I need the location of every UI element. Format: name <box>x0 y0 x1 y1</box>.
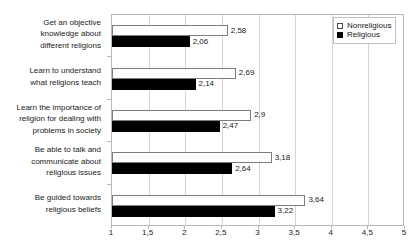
x-tick-mark <box>258 226 259 229</box>
bar-group-nonreligious: 2,9 <box>112 110 405 121</box>
bar <box>112 25 228 36</box>
category-label-line: communicate about <box>0 156 101 168</box>
x-tick-mark <box>367 226 368 229</box>
bar-group-religious: 3,22 <box>112 206 405 217</box>
category-row: 2,692,14 <box>112 57 403 99</box>
category-label-line: Learn to understand <box>0 65 101 77</box>
bar-value-label: 2,47 <box>220 122 239 130</box>
x-tick-label: 3,5 <box>289 228 300 237</box>
category-label-line: what religions teach <box>0 77 101 89</box>
category-axis-labels: Get an objectiveknowledge aboutdifferent… <box>0 14 107 226</box>
bar-group-nonreligious: 3,64 <box>112 195 405 206</box>
category-row: 3,182,64 <box>112 142 403 184</box>
bar <box>112 195 305 206</box>
bar-chart: 2,582,062,692,142,92,473,182,643,643,22 … <box>0 0 418 252</box>
x-tick-label: 2,5 <box>215 228 226 237</box>
bar-group-religious: 2,14 <box>112 79 405 90</box>
x-tick-label: 3 <box>255 228 259 237</box>
x-tick-mark <box>331 226 332 229</box>
category-label-line: Be guided towards <box>0 192 101 204</box>
category-label-line: Learn the importance of <box>0 102 101 114</box>
bar-value-label: 2,9 <box>251 111 265 119</box>
category-label-line: different religions <box>0 40 101 52</box>
x-axis-labels: 11,522,533,544,55 <box>0 228 418 244</box>
y-tick-mark <box>107 56 111 57</box>
bar <box>112 152 272 163</box>
category-label-line: religion for dealing with <box>0 113 101 125</box>
bar-group-nonreligious: 2,69 <box>112 68 405 79</box>
chart-legend: NonreligiousReligious <box>333 17 396 44</box>
x-tick-mark <box>404 226 405 229</box>
y-tick-mark <box>107 184 111 185</box>
category-label-line: Get an objective <box>0 17 101 29</box>
bar-group-nonreligious: 3,18 <box>112 152 405 163</box>
category-label: Be guided towardsreligious beliefs <box>0 192 101 215</box>
category-label: Get an objectiveknowledge aboutdifferent… <box>0 17 101 52</box>
plot-area: 2,582,062,692,142,92,473,182,643,643,22 <box>111 14 404 226</box>
bar-value-label: 3,64 <box>305 196 324 204</box>
category-label: Be able to talk andcommunicate aboutreli… <box>0 144 101 179</box>
x-tick-mark <box>148 226 149 229</box>
x-tick-label: 1 <box>109 228 113 237</box>
bar <box>112 163 232 174</box>
category-label-line: religious issues <box>0 167 101 179</box>
bar <box>112 121 220 132</box>
category-row: 3,643,22 <box>112 185 403 227</box>
bar <box>112 206 275 217</box>
category-label: Learn to understandwhat religions teach <box>0 65 101 88</box>
bar-value-label: 2,64 <box>232 165 251 173</box>
bar-value-label: 2,14 <box>196 80 215 88</box>
x-tick-mark <box>111 226 112 229</box>
category-row: 2,92,47 <box>112 100 403 142</box>
bar-group-religious: 2,64 <box>112 163 405 174</box>
y-tick-mark <box>107 99 111 100</box>
legend-swatch-icon <box>337 23 343 29</box>
bar-group-religious: 2,47 <box>112 121 405 132</box>
bar-value-label: 3,22 <box>275 207 294 215</box>
x-tick-label: 4,5 <box>362 228 373 237</box>
legend-swatch-icon <box>337 32 343 38</box>
category-label-line: problems in society <box>0 125 101 137</box>
y-tick-mark <box>107 141 111 142</box>
legend-item-nonreligious[interactable]: Nonreligious <box>337 22 391 30</box>
x-tick-label: 2 <box>182 228 186 237</box>
bar <box>112 68 236 79</box>
x-tick-label: 4 <box>329 228 333 237</box>
category-label: Learn the importance ofreligion for deal… <box>0 102 101 137</box>
category-label-line: knowledge about <box>0 28 101 40</box>
legend-item-religious[interactable]: Religious <box>337 31 391 39</box>
x-tick-label: 1,5 <box>142 228 153 237</box>
bar-value-label: 2,06 <box>190 38 209 46</box>
x-tick-mark <box>184 226 185 229</box>
category-label-line: religious beliefs <box>0 204 101 216</box>
bar <box>112 79 196 90</box>
x-tick-mark <box>221 226 222 229</box>
legend-label: Religious <box>347 31 380 39</box>
legend-label: Nonreligious <box>347 22 391 30</box>
bar <box>112 110 251 121</box>
x-tick-label: 5 <box>402 228 406 237</box>
bar <box>112 36 190 47</box>
bar-value-label: 2,58 <box>228 27 247 35</box>
bar-value-label: 2,69 <box>236 69 255 77</box>
x-tick-mark <box>294 226 295 229</box>
category-label-line: Be able to talk and <box>0 144 101 156</box>
bar-value-label: 3,18 <box>272 154 291 162</box>
